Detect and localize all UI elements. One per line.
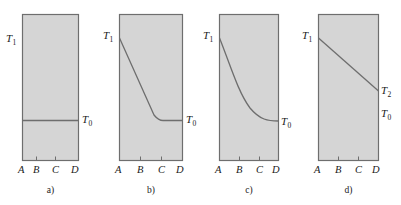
panel-a: T1 T0 A B C D a) <box>0 0 112 205</box>
panel-d-label-t0: T0 <box>381 108 391 119</box>
panel-c-body <box>220 15 279 161</box>
panel-c-caption: c) <box>200 186 298 196</box>
panel-a-caption: a) <box>0 186 101 196</box>
panel-d-axis-c: C <box>355 165 362 176</box>
panel-c-label-t0: T0 <box>281 116 291 127</box>
panel-a-body <box>23 15 79 161</box>
panel-a-label-t0: T0 <box>82 114 92 125</box>
panel-d-body <box>319 15 379 161</box>
figure-container: T1 T0 A B C D a) T1 T0 A B C D b) T1 <box>0 0 401 205</box>
panel-b-label-t1: T1 <box>103 30 113 41</box>
panel-d-caption: d) <box>299 186 398 196</box>
panel-a-label-t1: T1 <box>6 33 16 44</box>
panel-c-axis-a: A <box>215 165 221 176</box>
panel-a-axis-b: B <box>33 165 39 176</box>
panel-b-axis-d: D <box>176 165 184 176</box>
panel-c-label-t1: T1 <box>203 30 213 41</box>
panel-a-axis-c: C <box>52 165 59 176</box>
panel-b-body <box>120 15 183 161</box>
panel-a-axis-d: D <box>71 165 79 176</box>
panel-d-label-t1: T1 <box>302 30 312 41</box>
panel-d-label-t2: T2 <box>381 85 391 96</box>
panel-b-caption: b) <box>100 186 202 196</box>
panel-a-axis-a: A <box>18 165 24 176</box>
panel-b: T1 T0 A B C D b) <box>100 0 210 205</box>
panel-b-axis-a: A <box>115 165 121 176</box>
panel-b-axis-c: C <box>158 165 165 176</box>
panel-b-axis-b: B <box>137 165 143 176</box>
panel-c-axis-d: D <box>272 165 280 176</box>
panel-b-label-t0: T0 <box>186 114 196 125</box>
panel-c-axis-b: B <box>236 165 242 176</box>
panel-c: T1 T0 A B C D c) <box>200 0 308 205</box>
panel-d: T1 T2 T0 A B C D d) <box>299 0 401 205</box>
panel-d-axis-a: A <box>314 165 320 176</box>
panel-d-axis-d: D <box>372 165 380 176</box>
panel-d-axis-b: B <box>335 165 341 176</box>
panel-c-axis-c: C <box>256 165 263 176</box>
